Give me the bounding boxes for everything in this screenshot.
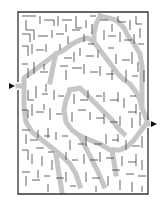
entrance-arrow-icon: [9, 83, 15, 89]
solution-path: [18, 16, 148, 192]
maze-puzzle: [0, 0, 162, 208]
exit-arrow-icon: [151, 121, 157, 127]
maze-walls: [22, 16, 146, 192]
